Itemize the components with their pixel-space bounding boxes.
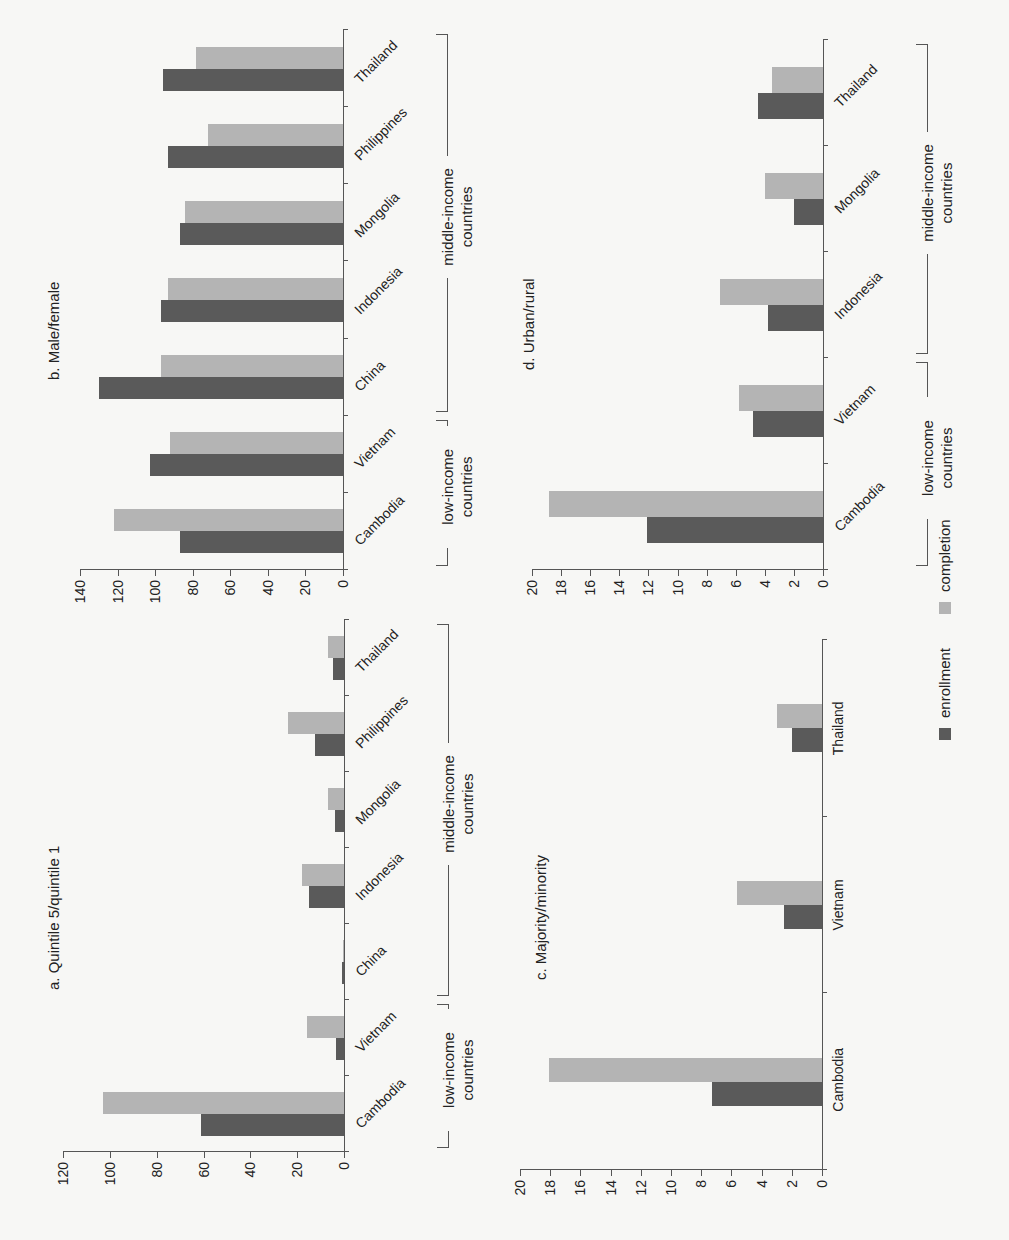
bar-enrollment-thailand	[163, 69, 343, 91]
y-tick-label: 80	[149, 1162, 165, 1196]
bar-enrollment-thailand	[792, 728, 822, 752]
group-label-line2: countries	[457, 432, 476, 542]
category-label-vietnam: Vietnam	[352, 1008, 399, 1055]
category-label-cambodia: Cambodia	[352, 1075, 408, 1131]
bar-completion-mongolia	[765, 173, 823, 199]
y-tick	[63, 1152, 64, 1158]
category-label-cambodia: Cambodia	[351, 492, 407, 548]
y-tick-label: 10	[663, 1180, 679, 1214]
category-label-thailand: Thailand	[831, 61, 880, 110]
y-tick	[204, 1152, 205, 1158]
y-tick	[736, 570, 737, 576]
bar-enrollment-thailand	[333, 658, 344, 680]
x-tick	[344, 1075, 349, 1076]
y-tick	[155, 570, 156, 576]
x-tick	[344, 619, 349, 620]
bar-completion-cambodia	[114, 509, 343, 531]
category-label-indonesia: Indonesia	[351, 263, 405, 317]
group-label-line1: low-income	[438, 432, 457, 542]
group-label-middle-income: middle-incomecountries	[918, 132, 956, 254]
category-label-cambodia: Cambodia	[831, 478, 887, 534]
enrollment-swatch	[939, 728, 951, 740]
y-tick	[268, 570, 269, 576]
group-label-line2: countries	[457, 162, 476, 272]
category-label-philippines: Philippines	[352, 692, 411, 751]
x-tick	[822, 1169, 827, 1170]
category-label-thailand: Thailand	[352, 626, 401, 675]
bar-completion-indonesia	[168, 278, 343, 300]
y-tick-label: 16	[582, 580, 598, 614]
x-tick	[343, 183, 348, 184]
completion-swatch	[939, 602, 951, 614]
y-tick-label: 20	[297, 580, 313, 614]
x-tick	[344, 771, 349, 772]
category-label-china: China	[352, 942, 389, 979]
y-tick-label: 8	[693, 1180, 709, 1214]
bar-enrollment-indonesia	[161, 300, 343, 322]
bar-completion-china	[343, 940, 344, 962]
y-tick	[157, 1152, 158, 1158]
x-tick	[343, 569, 348, 570]
group-label-line1: middle-income	[439, 749, 458, 859]
panel-title: b. Male/female	[45, 282, 62, 380]
y-tick	[611, 1170, 612, 1176]
y-tick-label: 6	[723, 1180, 739, 1214]
category-label-mongolia: Mongolia	[351, 189, 402, 240]
x-tick	[343, 106, 348, 107]
bracket-left-end	[916, 353, 928, 354]
y-tick-label: 16	[572, 1180, 588, 1214]
category-label-mongolia: Mongolia	[352, 776, 403, 827]
bar-completion-cambodia	[549, 1058, 822, 1082]
bar-enrollment-indonesia	[309, 886, 344, 908]
y-tick-label: 0	[815, 580, 831, 614]
bar-completion-vietnam	[307, 1016, 344, 1038]
y-tick	[822, 1170, 823, 1176]
y-tick	[701, 1170, 702, 1176]
x-tick	[343, 29, 348, 30]
y-tick	[305, 570, 306, 576]
x-tick	[823, 357, 828, 358]
group-label-line2: countries	[458, 749, 477, 859]
y-tick-label: 100	[147, 580, 163, 614]
x-tick	[343, 260, 348, 261]
y-tick-label: 100	[102, 1162, 118, 1196]
y-tick	[641, 1170, 642, 1176]
y-tick	[619, 570, 620, 576]
x-tick	[823, 145, 828, 146]
y-tick	[520, 1170, 521, 1176]
bar-enrollment-philippines	[315, 734, 344, 756]
y-tick-label: 60	[222, 580, 238, 614]
y-tick-label: 20	[289, 1162, 305, 1196]
category-label-cambodia: Cambodia	[830, 1052, 846, 1112]
bar-completion-indonesia	[720, 279, 823, 305]
bar-enrollment-china	[342, 962, 344, 984]
group-label-middle-income: middle-incomecountries	[439, 743, 477, 865]
y-tick	[250, 1152, 251, 1158]
bar-completion-philippines	[288, 712, 344, 734]
y-tick	[648, 570, 649, 576]
legend-enrollment-label: enrollment	[936, 648, 953, 718]
y-tick-label: 20	[512, 1180, 528, 1214]
group-label-line2: countries	[458, 1015, 477, 1125]
y-tick-label: 120	[110, 580, 126, 614]
y-tick	[792, 1170, 793, 1176]
bar-enrollment-cambodia	[201, 1114, 344, 1136]
y-tick-label: 40	[242, 1162, 258, 1196]
x-tick	[822, 639, 827, 640]
y-tick	[794, 570, 795, 576]
x-axis-line	[343, 30, 344, 570]
bar-completion-vietnam	[739, 385, 823, 411]
y-tick-label: 14	[603, 1180, 619, 1214]
category-label-vietnam: Vietnam	[831, 381, 878, 428]
y-tick	[731, 1170, 732, 1176]
y-tick	[707, 570, 708, 576]
bar-completion-vietnam	[737, 881, 822, 905]
y-tick-label: 18	[553, 580, 569, 614]
group-label-line1: middle-income	[918, 138, 937, 248]
bar-completion-vietnam	[170, 432, 343, 454]
y-tick-label: 40	[260, 580, 276, 614]
bar-enrollment-vietnam	[784, 905, 822, 929]
y-tick-label: 2	[786, 580, 802, 614]
group-label-line1: low-income	[439, 1015, 458, 1125]
y-tick	[110, 1152, 111, 1158]
